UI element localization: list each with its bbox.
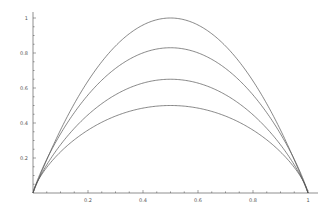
series-line-curve-4 (33, 106, 308, 194)
x-tick-label: 0.2 (84, 197, 92, 203)
x-tick-label: 0.8 (249, 197, 257, 203)
series-line-curve-2 (33, 48, 308, 193)
series-group (33, 18, 308, 193)
x-tick-label: 0.6 (194, 197, 202, 203)
y-tick-label: 0.6 (20, 85, 28, 91)
y-tick-label: 1 (25, 15, 28, 21)
y-tick-label: 0.4 (20, 120, 28, 126)
y-tick-label: 0.2 (20, 155, 28, 161)
series-line-curve-3 (33, 79, 308, 193)
y-tick-label: 0.8 (20, 50, 28, 56)
x-tick-label: 0.4 (139, 197, 147, 203)
line-chart: 0.20.40.60.810.20.40.60.81 (0, 0, 331, 212)
axes: 0.20.40.60.810.20.40.60.81 (20, 12, 318, 203)
x-tick-label: 1 (306, 197, 309, 203)
